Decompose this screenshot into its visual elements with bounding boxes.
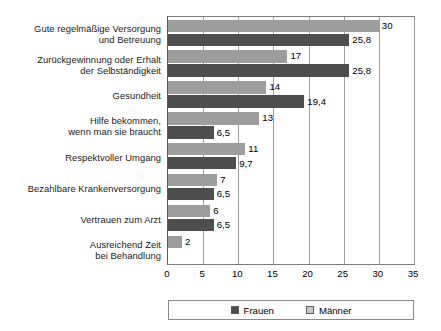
bar-frauen-0 xyxy=(168,34,349,46)
bar-chart: Gute regelmäßige Versorgung und Betreuun… xyxy=(0,0,441,331)
category-label-0: Gute regelmäßige Versorgung und Betreuun… xyxy=(34,23,161,45)
category-label-4: Respektvoller Umgang xyxy=(65,152,161,163)
bar-value-frauen-4: 9,7 xyxy=(239,159,252,169)
category-axis-labels: Gute regelmäßige Versorgung und Betreuun… xyxy=(0,16,164,265)
bar-frauen-2 xyxy=(168,95,304,107)
category-label-5: Bezahlbare Krankenversorgung xyxy=(28,183,161,194)
category-label-2: Gesundheit xyxy=(113,90,161,101)
legend-item-maenner: Männer xyxy=(306,305,352,316)
bar-value-maenner-7: 2 xyxy=(185,237,190,247)
bar-value-maenner-4: 11 xyxy=(248,144,258,154)
legend: Frauen Männer xyxy=(168,300,414,320)
x-tick-label-30: 30 xyxy=(373,268,384,279)
gridline-35 xyxy=(414,17,415,264)
x-tick-label-15: 15 xyxy=(267,268,278,279)
bar-value-maenner-1: 17 xyxy=(290,51,301,61)
bar-frauen-6 xyxy=(168,219,214,231)
category-label-6: Vertrauen zum Arzt xyxy=(80,214,161,225)
bar-value-frauen-1: 25,8 xyxy=(352,66,371,76)
bar-value-frauen-6: 6,5 xyxy=(217,220,230,230)
bar-maenner-0 xyxy=(168,20,379,32)
bar-frauen-3 xyxy=(168,126,214,138)
x-tick-label-25: 25 xyxy=(337,268,348,279)
bar-maenner-4 xyxy=(168,143,245,155)
x-tick-label-10: 10 xyxy=(232,268,243,279)
x-tick-label-0: 0 xyxy=(164,268,169,279)
bar-value-frauen-0: 25,8 xyxy=(352,35,371,45)
bar-value-frauen-5: 6,5 xyxy=(217,189,230,199)
legend-label-maenner: Männer xyxy=(319,305,352,316)
bars-layer: 3025,81725,81419,4136,5119,776,566,52 xyxy=(168,17,414,264)
plot-area: 3025,81725,81419,4136,5119,776,566,52 xyxy=(167,16,415,265)
bar-value-frauen-2: 19,4 xyxy=(307,97,326,107)
bar-maenner-7 xyxy=(168,236,182,248)
category-label-3: Hilfe bekommen, wenn man sie braucht xyxy=(68,115,161,137)
bar-value-maenner-6: 6 xyxy=(213,206,218,216)
bar-frauen-4 xyxy=(168,157,236,169)
bar-maenner-3 xyxy=(168,112,259,124)
bar-frauen-5 xyxy=(168,188,214,200)
legend-swatch-frauen-icon xyxy=(231,306,239,314)
x-axis: 05101520253035 xyxy=(167,266,417,282)
category-label-7: Ausreichend Zeit bei Behandlung xyxy=(90,239,161,261)
bar-value-maenner-0: 30 xyxy=(382,21,393,31)
bar-value-frauen-3: 6,5 xyxy=(217,128,230,138)
legend-item-frauen: Frauen xyxy=(231,305,274,316)
bar-maenner-6 xyxy=(168,205,210,217)
legend-label-frauen: Frauen xyxy=(244,305,274,316)
bar-maenner-2 xyxy=(168,81,266,93)
bar-maenner-5 xyxy=(168,174,217,186)
x-tick-label-35: 35 xyxy=(408,268,419,279)
category-label-1: Zurückgewinnung oder Erhalt der Selbstän… xyxy=(37,54,161,76)
bar-value-maenner-2: 14 xyxy=(269,82,280,92)
bar-value-maenner-5: 7 xyxy=(220,175,225,185)
x-tick-label-20: 20 xyxy=(302,268,313,279)
x-tick-label-5: 5 xyxy=(199,268,204,279)
bar-maenner-1 xyxy=(168,50,287,62)
bar-frauen-1 xyxy=(168,64,349,76)
legend-swatch-maenner-icon xyxy=(306,306,314,314)
bar-value-maenner-3: 13 xyxy=(262,113,273,123)
